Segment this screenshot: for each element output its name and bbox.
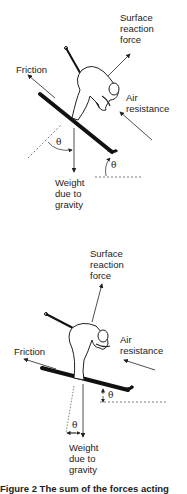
label-weight-due-to-gravity: Weight due to gravity [55, 177, 84, 210]
figure-caption: Figure 2 The sum of the forces acting [0, 483, 169, 494]
skier-steep-drawing [0, 0, 187, 240]
angle-theta-1: θ [72, 420, 77, 430]
label-surface-reaction-force: Surface reaction force [120, 12, 154, 45]
label-air-resistance: Air resistance [120, 334, 163, 356]
label-surface-reaction-force: Surface reaction force [90, 248, 124, 281]
angle-theta-2: θ [108, 390, 113, 400]
angle-theta-1: θ [56, 137, 61, 147]
skier-force-diagram-steep: Surface reaction force Friction Air resi… [0, 0, 187, 240]
label-air-resistance: Air resistance [126, 92, 169, 114]
label-friction: Friction [14, 346, 45, 357]
label-weight-due-to-gravity: Weight due to gravity [69, 442, 98, 475]
label-friction: Friction [16, 64, 47, 75]
angle-theta-2: θ [111, 160, 116, 170]
skier-force-diagram-shallow: Surface reaction force Friction Air resi… [0, 240, 187, 480]
